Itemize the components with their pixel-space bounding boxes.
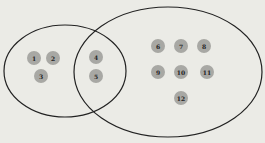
element-circle-8: 8 <box>197 39 211 53</box>
element-circle-10: 10 <box>174 65 188 79</box>
element-circle-7: 7 <box>174 39 188 53</box>
element-circle-6: 6 <box>151 39 165 53</box>
element-circle-5: 5 <box>89 69 103 83</box>
element-circle-2: 2 <box>46 51 60 65</box>
element-circle-9: 9 <box>151 65 165 79</box>
element-circle-11: 11 <box>200 65 214 79</box>
element-circle-12: 12 <box>174 91 188 105</box>
left-set-ellipse <box>4 25 126 117</box>
element-circle-1: 1 <box>27 51 41 65</box>
element-circle-3: 3 <box>34 69 48 83</box>
element-circle-4: 4 <box>89 50 103 64</box>
